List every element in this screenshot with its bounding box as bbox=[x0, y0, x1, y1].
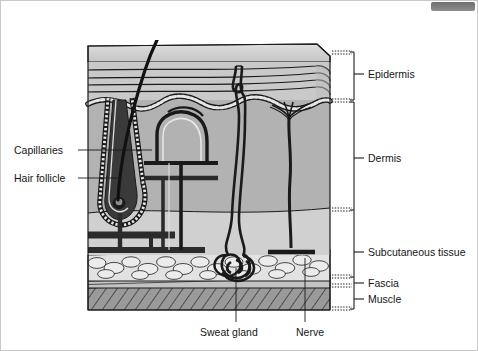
label-muscle: Muscle bbox=[368, 293, 401, 305]
label-sweat-gland: Sweat gland bbox=[200, 326, 258, 338]
layer-epidermis bbox=[88, 44, 330, 100]
boundary-ticks bbox=[332, 51, 352, 310]
right-bracket-group bbox=[332, 51, 364, 310]
bracket-subcutaneous bbox=[350, 210, 364, 277]
label-dermis: Dermis bbox=[368, 152, 401, 164]
label-nerve: Nerve bbox=[296, 326, 324, 338]
label-capillaries: Capillaries bbox=[14, 144, 63, 156]
bracket-dermis bbox=[350, 102, 364, 210]
skin-cross-section-figure: Capillaries Hair follicle Epidermis Derm… bbox=[0, 0, 478, 351]
skin-block bbox=[88, 4, 330, 310]
bracket-fascia bbox=[354, 277, 364, 286]
skin-diagram-svg bbox=[0, 0, 478, 351]
label-fascia: Fascia bbox=[368, 277, 399, 289]
bracket-muscle bbox=[350, 286, 364, 309]
bracket-epidermis bbox=[350, 52, 364, 100]
label-subcutaneous-tissue: Subcutaneous tissue bbox=[368, 246, 465, 258]
label-hair-follicle: Hair follicle bbox=[14, 172, 65, 184]
label-epidermis: Epidermis bbox=[368, 68, 415, 80]
